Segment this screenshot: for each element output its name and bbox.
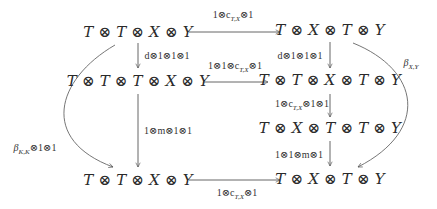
node-low-right: T ⊗ X ⊗ T ⊗ T ⊗ Y xyxy=(259,119,401,137)
node-mid-left: T ⊗ T ⊗ T ⊗ X ⊗ Y xyxy=(67,72,209,90)
label-mid-arrow: 1⊗1⊗cT,X⊗1 xyxy=(208,60,262,74)
label-left-curve: βK,K⊗1⊗1 xyxy=(14,142,57,156)
label-right-m: 1⊗1⊗m⊗1 xyxy=(275,149,323,160)
label-left-d: d⊗1⊗1⊗1 xyxy=(144,50,189,61)
node-mid-right: T ⊗ T ⊗ X ⊗ T ⊗ Y xyxy=(259,71,401,89)
label-left-m: 1⊗m⊗1⊗1 xyxy=(144,125,192,136)
node-top-left: T ⊗ T ⊗ X ⊗ Y xyxy=(83,23,193,41)
label-right-d: d⊗1⊗1⊗1 xyxy=(277,50,322,61)
node-bottom-left: T ⊗ T ⊗ X ⊗ Y xyxy=(83,171,193,189)
label-right-curve: βX,Y xyxy=(404,57,419,71)
arrow-left-curve xyxy=(64,45,115,167)
label-right-c: 1⊗cT,X⊗1⊗1 xyxy=(275,98,329,112)
node-top-right: T ⊗ X ⊗ T ⊗ Y xyxy=(275,21,385,39)
arrow-right-curve xyxy=(353,43,408,167)
commutative-diagram: T ⊗ T ⊗ X ⊗ Y T ⊗ X ⊗ T ⊗ Y T ⊗ T ⊗ T ⊗ … xyxy=(0,0,437,209)
node-bottom-right: T ⊗ X ⊗ T ⊗ Y xyxy=(275,170,385,188)
label-bottom-arrow: 1⊗cT,X⊗1 xyxy=(217,187,258,201)
label-top-arrow: 1⊗cT,X⊗1 xyxy=(213,9,254,23)
